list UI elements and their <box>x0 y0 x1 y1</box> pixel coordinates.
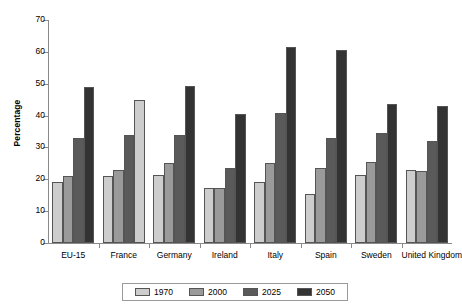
bar-group <box>103 20 145 243</box>
bar-group <box>254 20 296 243</box>
bar-group <box>52 20 94 243</box>
y-tick-label: 70 <box>36 14 45 24</box>
bar-group <box>204 20 246 243</box>
x-tick-label: United Kingdom <box>402 250 453 260</box>
y-axis-line <box>48 20 49 243</box>
x-tick-mark <box>402 243 403 248</box>
x-tick-mark <box>250 243 251 248</box>
bar <box>315 168 326 243</box>
bar-chart-figure: Percentage 010203040506070 EU-15FranceGe… <box>0 0 462 308</box>
legend-item: 1970 <box>135 287 173 297</box>
bar <box>254 182 265 243</box>
bar <box>134 100 145 243</box>
bar <box>235 114 246 243</box>
bar-group <box>355 20 397 243</box>
y-tick-label: 10 <box>36 205 45 215</box>
bar <box>52 182 63 243</box>
bar <box>326 138 337 243</box>
legend-swatch <box>135 288 150 296</box>
bar <box>437 106 448 243</box>
legend-item: 2000 <box>189 287 227 297</box>
x-tick-label: EU-15 <box>48 250 99 260</box>
bar <box>185 86 196 243</box>
x-tick-mark <box>149 243 150 248</box>
bar <box>214 188 225 243</box>
bar-group <box>406 20 448 243</box>
legend-item: 2025 <box>243 287 281 297</box>
legend-label: 2000 <box>208 287 227 297</box>
y-tick-label: 60 <box>36 46 45 56</box>
bar <box>63 176 74 243</box>
legend-label: 2050 <box>316 287 335 297</box>
x-tick-label: Italy <box>250 250 301 260</box>
bar-group <box>305 20 347 243</box>
bar <box>113 170 124 243</box>
bar <box>84 87 95 243</box>
y-tick-label: 20 <box>36 173 45 183</box>
x-tick-mark <box>200 243 201 248</box>
bar <box>355 175 366 243</box>
y-axis-title: Percentage <box>12 78 22 168</box>
x-tick-label: Sweden <box>351 250 402 260</box>
bar <box>164 163 175 243</box>
y-tick-label: 0 <box>40 237 45 247</box>
bar <box>416 171 427 243</box>
x-tick-label: Spain <box>301 250 352 260</box>
x-tick-mark <box>351 243 352 248</box>
bar <box>225 168 236 243</box>
plot-area: 010203040506070 EU-15FranceGermanyIrelan… <box>48 20 452 243</box>
y-tick-label: 50 <box>36 78 45 88</box>
x-tick-mark <box>301 243 302 248</box>
bar-group <box>153 20 195 243</box>
legend-label: 2025 <box>262 287 281 297</box>
y-tick-label: 40 <box>36 110 45 120</box>
y-tick-label: 30 <box>36 141 45 151</box>
x-tick-label: Ireland <box>200 250 251 260</box>
bar <box>406 170 417 243</box>
bar <box>305 194 316 243</box>
x-tick-label: Germany <box>149 250 200 260</box>
legend-item: 2050 <box>297 287 335 297</box>
bar <box>376 133 387 243</box>
bar <box>286 47 297 243</box>
legend-swatch <box>243 288 258 296</box>
legend-swatch <box>189 288 204 296</box>
bar <box>336 50 347 243</box>
bar <box>174 135 185 243</box>
bar <box>204 188 215 243</box>
bar <box>265 163 276 243</box>
bar <box>275 113 286 243</box>
bar <box>124 135 135 243</box>
bar <box>73 138 84 243</box>
bar <box>387 104 398 243</box>
x-tick-mark <box>99 243 100 248</box>
bar <box>366 162 377 243</box>
bar <box>103 176 114 243</box>
bar <box>153 175 164 243</box>
bar <box>427 141 438 243</box>
legend-label: 1970 <box>154 287 173 297</box>
legend-swatch <box>297 288 312 296</box>
chart-legend: 1970200020252050 <box>122 283 348 301</box>
x-tick-label: France <box>99 250 150 260</box>
